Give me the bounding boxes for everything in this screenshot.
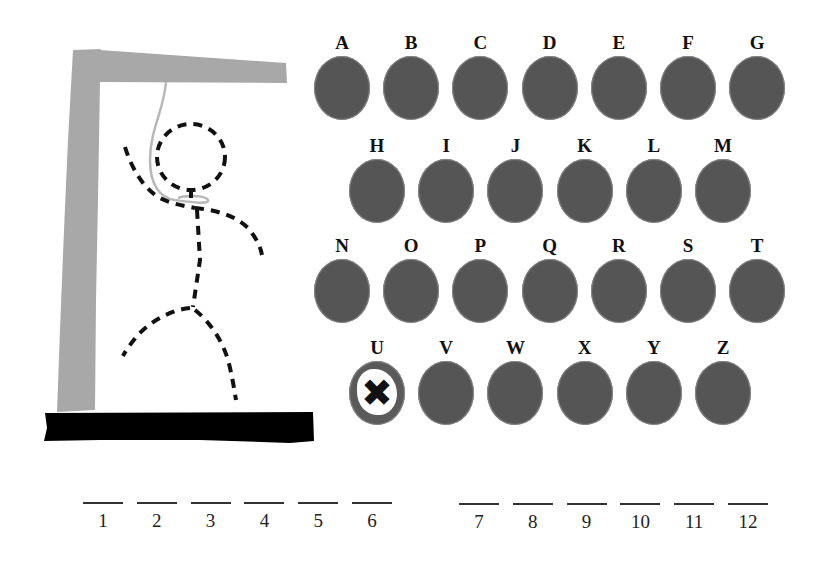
letter-button-r[interactable]: R xyxy=(590,235,648,323)
letter-label: A xyxy=(313,32,371,54)
letter-slot-4: 4 xyxy=(244,502,284,538)
letter-disc[interactable] xyxy=(522,56,578,120)
letter-button-o[interactable]: O xyxy=(382,235,440,323)
letter-disc[interactable] xyxy=(452,56,508,120)
letter-button-k[interactable]: K xyxy=(556,135,614,223)
letter-disc[interactable] xyxy=(487,159,543,223)
letter-label: O xyxy=(382,235,440,257)
letter-disc[interactable] xyxy=(314,56,370,120)
letter-button-w[interactable]: W xyxy=(486,337,544,425)
slot-underline xyxy=(298,502,338,504)
letter-button-a[interactable]: A xyxy=(313,32,371,120)
letter-label: M xyxy=(694,135,752,157)
letter-button-y[interactable]: Y xyxy=(625,337,683,425)
letter-label: R xyxy=(590,235,648,257)
letter-label: Z xyxy=(694,337,752,359)
slot-number: 3 xyxy=(191,510,231,532)
letter-button-f[interactable]: F xyxy=(659,32,717,120)
letter-label: L xyxy=(625,135,683,157)
letter-button-c[interactable]: C xyxy=(451,32,509,120)
slot-underline xyxy=(83,502,123,504)
slot-number: 2 xyxy=(137,510,177,532)
letter-slot-7: 7 xyxy=(459,503,499,539)
letter-disc[interactable] xyxy=(557,159,613,223)
letter-disc[interactable] xyxy=(418,361,474,425)
letter-label: P xyxy=(451,235,509,257)
slot-underline xyxy=(352,502,392,504)
letter-button-u[interactable]: U✖ xyxy=(348,337,406,425)
letter-disc[interactable] xyxy=(452,259,508,323)
letter-disc[interactable] xyxy=(418,159,474,223)
letter-label: H xyxy=(348,135,406,157)
letter-disc[interactable] xyxy=(487,361,543,425)
letter-button-h[interactable]: H xyxy=(348,135,406,223)
letter-button-b[interactable]: B xyxy=(382,32,440,120)
letter-slot-1: 1 xyxy=(83,502,123,538)
letter-button-m[interactable]: M xyxy=(694,135,752,223)
letter-disc[interactable] xyxy=(522,259,578,323)
letter-button-n[interactable]: N xyxy=(313,235,371,323)
letter-button-g[interactable]: G xyxy=(728,32,786,120)
letter-label: T xyxy=(728,235,786,257)
slot-underline xyxy=(567,503,607,505)
letter-disc[interactable] xyxy=(660,259,716,323)
gallows-beam xyxy=(73,50,287,83)
letter-button-e[interactable]: E xyxy=(590,32,648,120)
letter-slot-2: 2 xyxy=(137,502,177,538)
letter-label: E xyxy=(590,32,648,54)
letter-slot-12: 12 xyxy=(728,503,768,539)
letter-button-v[interactable]: V xyxy=(417,337,475,425)
letter-disc[interactable] xyxy=(591,56,647,120)
slot-number: 11 xyxy=(674,511,714,533)
slot-underline xyxy=(459,503,499,505)
letter-button-t[interactable]: T xyxy=(728,235,786,323)
letter-disc[interactable] xyxy=(383,259,439,323)
letter-disc[interactable] xyxy=(314,259,370,323)
letter-slot-8: 8 xyxy=(513,503,553,539)
letter-label: J xyxy=(486,135,544,157)
letter-label: C xyxy=(451,32,509,54)
letter-disc[interactable] xyxy=(349,159,405,223)
letter-label: U xyxy=(348,337,406,359)
letter-disc[interactable]: ✖ xyxy=(349,361,405,425)
letter-disc[interactable] xyxy=(557,361,613,425)
letter-button-x[interactable]: X xyxy=(556,337,614,425)
letter-button-q[interactable]: Q xyxy=(521,235,579,323)
letter-disc[interactable] xyxy=(660,56,716,120)
letter-slot-6: 6 xyxy=(352,502,392,538)
slot-underline xyxy=(137,502,177,504)
letter-button-i[interactable]: I xyxy=(417,135,475,223)
letter-disc[interactable] xyxy=(626,361,682,425)
wrong-x-icon: ✖ xyxy=(349,361,405,425)
letter-label: X xyxy=(556,337,614,359)
letter-disc[interactable] xyxy=(383,56,439,120)
figure-left-leg xyxy=(123,308,190,356)
letter-label: Q xyxy=(521,235,579,257)
slot-number: 8 xyxy=(513,511,553,533)
letter-button-s[interactable]: S xyxy=(659,235,717,323)
slot-underline xyxy=(191,502,231,504)
figure-right-leg xyxy=(195,310,236,400)
letter-button-z[interactable]: Z xyxy=(694,337,752,425)
letter-button-p[interactable]: P xyxy=(451,235,509,323)
letter-disc[interactable] xyxy=(695,159,751,223)
gallows-drawing xyxy=(0,0,330,460)
letter-button-d[interactable]: D xyxy=(521,32,579,120)
letter-button-l[interactable]: L xyxy=(625,135,683,223)
letter-label: B xyxy=(382,32,440,54)
letter-disc[interactable] xyxy=(695,361,751,425)
letter-disc[interactable] xyxy=(626,159,682,223)
letter-disc[interactable] xyxy=(591,259,647,323)
letter-slot-9: 9 xyxy=(567,503,607,539)
letter-label: I xyxy=(417,135,475,157)
letter-button-j[interactable]: J xyxy=(486,135,544,223)
letter-slot-10: 10 xyxy=(620,503,660,539)
figure-body xyxy=(193,210,200,307)
letter-label: S xyxy=(659,235,717,257)
letter-disc[interactable] xyxy=(729,259,785,323)
letter-label: D xyxy=(521,32,579,54)
slot-underline xyxy=(513,503,553,505)
letter-slot-11: 11 xyxy=(674,503,714,539)
letter-disc[interactable] xyxy=(729,56,785,120)
letter-slot-3: 3 xyxy=(191,502,231,538)
